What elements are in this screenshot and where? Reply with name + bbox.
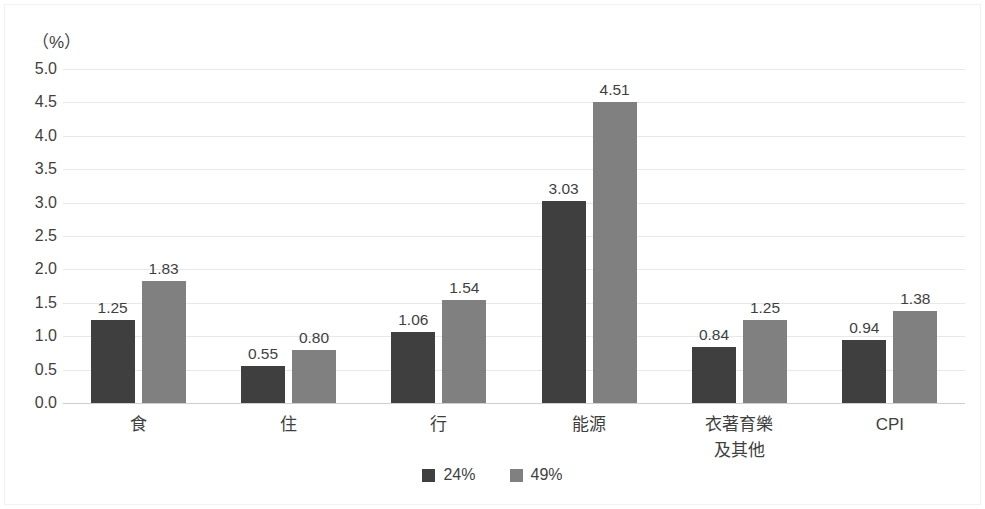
bar-slot: 1.54 [442, 69, 486, 403]
bar-group-bars: 0.941.38 [815, 69, 965, 403]
bar-group-bars: 1.251.83 [63, 69, 213, 403]
y-axis-tick-label: 2.5 [9, 227, 57, 245]
bar[interactable] [842, 340, 886, 403]
bar-value-label: 3.03 [549, 180, 579, 198]
bar-value-label: 0.55 [248, 345, 278, 363]
bar-group: 0.941.38 [815, 69, 965, 403]
legend-item[interactable]: 24% [422, 466, 475, 484]
bar[interactable] [292, 350, 336, 403]
bar-group: 1.251.83 [63, 69, 213, 403]
bar-value-label: 1.54 [449, 279, 479, 297]
bar[interactable] [142, 281, 186, 403]
bar-group-bars: 0.550.80 [213, 69, 363, 403]
bar-value-label: 4.51 [600, 81, 630, 99]
bar-group-bars: 0.841.25 [664, 69, 814, 403]
bar[interactable] [893, 311, 937, 403]
bar-slot: 0.94 [842, 69, 886, 403]
bar-slot: 0.80 [292, 69, 336, 403]
legend-swatch-icon [510, 469, 523, 482]
bar[interactable] [442, 300, 486, 403]
legend-label: 49% [531, 466, 563, 484]
x-axis-category-label: 能源 [514, 408, 664, 464]
bar-slot: 1.25 [91, 69, 135, 403]
bar-value-label: 0.94 [849, 319, 879, 337]
bar-value-label: 0.84 [699, 326, 729, 344]
legend-item[interactable]: 49% [510, 466, 563, 484]
bar-slot: 3.03 [542, 69, 586, 403]
y-axis-tick-label: 4.0 [9, 127, 57, 145]
bar[interactable] [593, 102, 637, 403]
bar[interactable] [743, 320, 787, 404]
bar-slot: 1.83 [142, 69, 186, 403]
bar-slot: 1.38 [893, 69, 937, 403]
x-axis-category-label: 食 [63, 408, 213, 464]
y-axis-tick-label: 1.0 [9, 327, 57, 345]
bar-group: 0.841.25 [664, 69, 814, 403]
bar-slot: 0.84 [692, 69, 736, 403]
x-axis-category-label: 行 [364, 408, 514, 464]
y-axis-tick-label: 5.0 [9, 60, 57, 78]
y-axis-tick-label: 1.5 [9, 294, 57, 312]
bar-value-label: 1.38 [900, 290, 930, 308]
y-axis-tick-label: 3.0 [9, 194, 57, 212]
bar-value-label: 0.80 [299, 329, 329, 347]
bar-group: 0.550.80 [213, 69, 363, 403]
bar[interactable] [391, 332, 435, 403]
bar-value-label: 1.25 [98, 299, 128, 317]
bar-group: 3.034.51 [514, 69, 664, 403]
bar-slot: 1.25 [743, 69, 787, 403]
y-axis-tick-label: 0.5 [9, 361, 57, 379]
bar-group-bars: 1.061.54 [364, 69, 514, 403]
legend-swatch-icon [422, 469, 435, 482]
bar-chart: （%） 5.04.54.03.53.02.52.01.51.00.50.0 1.… [0, 0, 985, 509]
axis-baseline [63, 403, 965, 404]
bar[interactable] [241, 366, 285, 403]
y-axis-tick-label: 3.5 [9, 160, 57, 178]
bar[interactable] [692, 347, 736, 403]
bar-value-label: 1.06 [398, 311, 428, 329]
bar-group: 1.061.54 [364, 69, 514, 403]
chart-legend: 24%49% [0, 466, 985, 484]
x-axis-category-label: 住 [213, 408, 363, 464]
bar-value-label: 1.83 [149, 260, 179, 278]
x-axis-category-label: 衣著育樂 及其他 [664, 408, 814, 464]
x-axis-category-label: CPI [815, 408, 965, 464]
y-axis-tick-labels: 5.04.54.03.53.02.52.01.51.00.50.0 [0, 69, 57, 403]
bar-slot: 1.06 [391, 69, 435, 403]
bar[interactable] [91, 320, 135, 404]
bar-groups: 1.251.830.550.801.061.543.034.510.841.25… [63, 69, 965, 403]
bar-slot: 0.55 [241, 69, 285, 403]
y-axis-tick-label: 0.0 [9, 394, 57, 412]
bar-slot: 4.51 [593, 69, 637, 403]
y-axis-tick-label: 2.0 [9, 260, 57, 278]
bar[interactable] [542, 201, 586, 403]
legend-label: 24% [443, 466, 475, 484]
bar-group-bars: 3.034.51 [514, 69, 664, 403]
bar-value-label: 1.25 [750, 299, 780, 317]
x-axis-category-labels: 食住行能源衣著育樂 及其他CPI [63, 408, 965, 464]
y-axis-unit-label: （%） [32, 28, 81, 53]
y-axis-tick-label: 4.5 [9, 93, 57, 111]
